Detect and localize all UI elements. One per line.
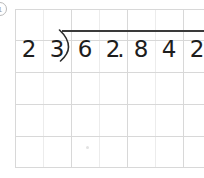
decimal-point: . [117, 36, 125, 62]
dividend-digit: 6 [71, 36, 99, 62]
divisor-digit: 2 [15, 36, 43, 62]
division-bracket-icon [58, 29, 70, 62]
dividend-digit: 2 [183, 36, 204, 62]
dividend-digit: 8 [127, 36, 155, 62]
long-division-expression: 2 3 6 2 . 8 4 2 [0, 0, 204, 178]
long-division-worksheet: 1 2 3 6 2 . 8 4 [0, 0, 204, 178]
division-vinculum [62, 30, 204, 32]
dividend-digit: 4 [155, 36, 183, 62]
